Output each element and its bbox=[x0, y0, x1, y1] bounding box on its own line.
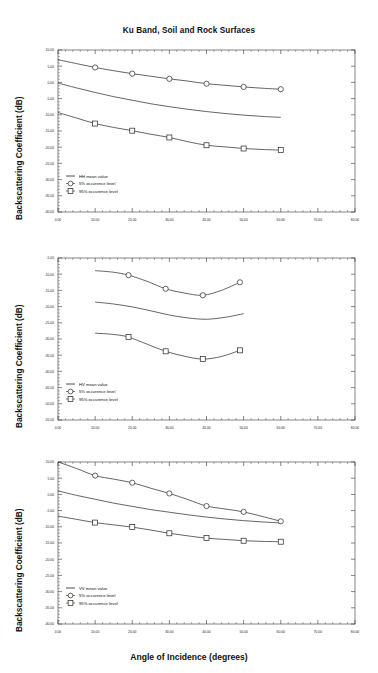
svg-text:-15.00: -15.00 bbox=[45, 541, 55, 545]
svg-text:70.00: 70.00 bbox=[314, 630, 322, 634]
svg-text:VV mean value: VV mean value bbox=[79, 586, 108, 591]
svg-text:50.00: 50.00 bbox=[239, 426, 247, 430]
svg-text:HV mean value: HV mean value bbox=[79, 382, 108, 387]
svg-text:-25.00: -25.00 bbox=[45, 321, 55, 325]
chart-panel-hv: Backscattering Coefficient (dB) 0.0010.0… bbox=[0, 248, 378, 443]
svg-text:60.00: 60.00 bbox=[277, 630, 285, 634]
svg-text:30.00: 30.00 bbox=[165, 218, 173, 222]
svg-text:10.00: 10.00 bbox=[46, 48, 54, 52]
x-axis-label: Angle of Incidence (degrees) bbox=[0, 652, 378, 662]
svg-text:10.00: 10.00 bbox=[91, 426, 99, 430]
svg-text:40.00: 40.00 bbox=[202, 218, 210, 222]
svg-text:-35.00: -35.00 bbox=[45, 194, 55, 198]
svg-text:-5.00: -5.00 bbox=[46, 97, 54, 101]
svg-text:10.00: 10.00 bbox=[91, 630, 99, 634]
svg-text:70.00: 70.00 bbox=[314, 426, 322, 430]
svg-text:-5.00: -5.00 bbox=[46, 509, 54, 513]
svg-text:5% occurence level: 5% occurence level bbox=[79, 181, 115, 186]
figure-title: Ku Band, Soil and Rock Surfaces bbox=[0, 26, 378, 35]
svg-text:0.00: 0.00 bbox=[55, 630, 62, 634]
svg-text:80.00: 80.00 bbox=[351, 426, 359, 430]
svg-text:10.00: 10.00 bbox=[91, 218, 99, 222]
svg-text:-20.00: -20.00 bbox=[45, 305, 55, 309]
svg-text:20.00: 20.00 bbox=[128, 630, 136, 634]
svg-text:0.00: 0.00 bbox=[48, 81, 55, 85]
svg-text:-15.00: -15.00 bbox=[45, 289, 55, 293]
svg-text:-10.00: -10.00 bbox=[45, 273, 55, 277]
svg-text:50.00: 50.00 bbox=[239, 630, 247, 634]
svg-text:50.00: 50.00 bbox=[239, 218, 247, 222]
svg-text:80.00: 80.00 bbox=[351, 630, 359, 634]
svg-text:-45.00: -45.00 bbox=[45, 386, 55, 390]
svg-text:-55.00: -55.00 bbox=[45, 418, 55, 422]
svg-text:5.00: 5.00 bbox=[48, 65, 55, 69]
svg-text:-40.00: -40.00 bbox=[45, 210, 55, 214]
svg-text:5% occurence level: 5% occurence level bbox=[79, 593, 115, 598]
svg-text:95% occurence level: 95% occurence level bbox=[79, 189, 118, 194]
svg-text:20.00: 20.00 bbox=[128, 218, 136, 222]
plot-area-vv: 0.0010.0020.0030.0040.0050.0060.0070.008… bbox=[0, 452, 378, 647]
svg-text:10.00: 10.00 bbox=[46, 460, 54, 464]
svg-text:HH mean value: HH mean value bbox=[79, 174, 109, 179]
svg-text:-20.00: -20.00 bbox=[45, 558, 55, 562]
svg-text:-30.00: -30.00 bbox=[45, 178, 55, 182]
svg-text:5.00: 5.00 bbox=[48, 477, 55, 481]
svg-text:-20.00: -20.00 bbox=[45, 146, 55, 150]
svg-text:-10.00: -10.00 bbox=[45, 113, 55, 117]
svg-text:-50.00: -50.00 bbox=[45, 402, 55, 406]
svg-text:60.00: 60.00 bbox=[277, 218, 285, 222]
svg-text:0.00: 0.00 bbox=[55, 426, 62, 430]
svg-text:-15.00: -15.00 bbox=[45, 129, 55, 133]
svg-text:-35.00: -35.00 bbox=[45, 606, 55, 610]
svg-text:-10.00: -10.00 bbox=[45, 525, 55, 529]
svg-text:-5.00: -5.00 bbox=[46, 256, 54, 260]
svg-text:40.00: 40.00 bbox=[202, 630, 210, 634]
svg-text:40.00: 40.00 bbox=[202, 426, 210, 430]
svg-text:30.00: 30.00 bbox=[165, 630, 173, 634]
svg-text:-25.00: -25.00 bbox=[45, 162, 55, 166]
chart-panel-vv: Backscattering Coefficient (dB) 0.0010.0… bbox=[0, 452, 378, 647]
svg-text:80.00: 80.00 bbox=[351, 218, 359, 222]
plot-area-hh: 0.0010.0020.0030.0040.0050.0060.0070.008… bbox=[0, 40, 378, 235]
svg-text:0.00: 0.00 bbox=[55, 218, 62, 222]
svg-text:-30.00: -30.00 bbox=[45, 590, 55, 594]
svg-text:0.00: 0.00 bbox=[48, 493, 55, 497]
svg-text:60.00: 60.00 bbox=[277, 426, 285, 430]
plot-area-hv: 0.0010.0020.0030.0040.0050.0060.0070.008… bbox=[0, 248, 378, 443]
figure-container: Ku Band, Soil and Rock Surfaces Backscat… bbox=[0, 0, 378, 673]
svg-text:70.00: 70.00 bbox=[314, 218, 322, 222]
svg-text:-35.00: -35.00 bbox=[45, 354, 55, 358]
svg-text:20.00: 20.00 bbox=[128, 426, 136, 430]
svg-text:95% occurence level: 95% occurence level bbox=[79, 397, 118, 402]
svg-text:95% occurence level: 95% occurence level bbox=[79, 601, 118, 606]
svg-text:-30.00: -30.00 bbox=[45, 337, 55, 341]
chart-panel-hh: Backscattering Coefficient (dB) 0.0010.0… bbox=[0, 40, 378, 235]
svg-text:-25.00: -25.00 bbox=[45, 574, 55, 578]
svg-text:-40.00: -40.00 bbox=[45, 622, 55, 626]
svg-text:-40.00: -40.00 bbox=[45, 370, 55, 374]
svg-text:30.00: 30.00 bbox=[165, 426, 173, 430]
svg-text:5% occurence level: 5% occurence level bbox=[79, 389, 115, 394]
